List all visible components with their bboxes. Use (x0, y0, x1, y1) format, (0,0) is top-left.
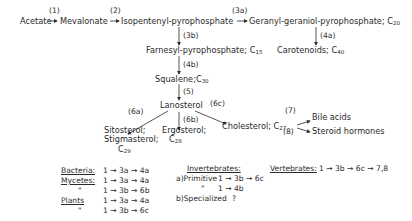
node-sitosterol: Sitosterol; (104, 126, 145, 134)
legend-plants2-path: 1 → 3b → 6c (103, 207, 149, 215)
node-isopentenyl-pyrophosphate: Isopentenyl-pyrophosphate (121, 17, 233, 25)
legend-inv-b-path: ? (232, 195, 236, 203)
legend-vertebrates-path: 1 → 3b → 6c → 7,8 (319, 165, 388, 173)
node-bile-acids: Bile acids (312, 113, 351, 121)
step-8: (8) (283, 128, 294, 136)
step-4b: (4b) (183, 61, 199, 69)
step-6b: (6b) (183, 116, 199, 124)
legend-inv-a2-label: " (201, 185, 205, 193)
node-ergosterol-carbon: C28 (169, 135, 182, 145)
legend-vertebrates-label: Vertebrates: (270, 165, 317, 173)
node-carotenoids: Carotenoids; C40 (277, 46, 344, 56)
node-ergosterol: Ergosterol; (162, 126, 206, 134)
step-1: (1) (49, 7, 60, 15)
node-steroid-hormones: Steroid hormones (312, 127, 385, 135)
node-geranyl-geraniol-pyrophosphate: Geranyl-geraniol-pyrophosphate; C20 (249, 17, 400, 27)
step-3a: (3a) (232, 7, 247, 15)
node-squalene: Squalene;C30 (155, 75, 209, 85)
step-6c: (6c) (210, 100, 225, 108)
step-6a: (6a) (128, 108, 143, 116)
legend-plants-label: Plants (61, 197, 84, 205)
legend-plants2-label: " (78, 207, 82, 215)
legend-inv-b-label: b)Specialized (176, 195, 227, 203)
legend-bacteria-label: Bacteria: (61, 167, 95, 175)
legend-plants-path: 1 → 3a → 4a (103, 197, 149, 205)
legend-invertebrates-label: Invertebrates: (187, 165, 241, 173)
legend-bacteria-path: 1 → 3a → 4a (103, 167, 149, 175)
step-2: (2) (110, 7, 121, 15)
legend-mycetes-path: 1 → 3a → 4a (103, 177, 149, 185)
node-farnesyl-pyrophosphate: Farnesyl-pyrophosphate; C15 (146, 46, 262, 56)
step-3b: (3b) (183, 32, 199, 40)
node-mevalonate: Mevalonate (60, 17, 108, 25)
node-cholesterol: Cholesterol; C27 (222, 122, 286, 132)
legend-inv-a2-path: 1 → 4b (218, 185, 244, 193)
pathway-arrows (0, 0, 412, 221)
legend-inv-a-label: a)Primitive (176, 175, 217, 183)
node-lanosterol: Lanosterol (160, 101, 203, 109)
node-stigmasterol: Stigmasterol; (104, 135, 159, 143)
step-4a: (4a) (320, 32, 335, 40)
step-7: (7) (285, 107, 296, 115)
legend-inv-a-path: 1 → 3b → 6c (218, 175, 264, 183)
node-acetate: Acetate (20, 17, 51, 25)
node-sitosterol-carbon: C29 (118, 145, 131, 155)
step-5: (5) (183, 88, 194, 96)
legend-mycetes2-path: 1 → 3b → 6b (103, 187, 150, 195)
legend-mycetes2-label: " (78, 187, 82, 195)
legend-mycetes-label: Mycetes: (61, 177, 95, 185)
